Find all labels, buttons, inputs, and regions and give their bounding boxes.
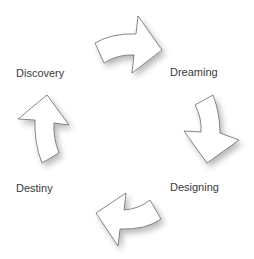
cycle-diagram: Discovery Dreaming Designing Destiny (0, 0, 254, 259)
arrows-layer (0, 0, 254, 259)
curved-arrow-left-icon (96, 193, 161, 246)
curved-arrow-right-icon (95, 16, 162, 73)
stage-label-designing: Designing (170, 181, 219, 193)
stage-label-destiny: Destiny (16, 182, 53, 194)
stage-label-dreaming: Dreaming (170, 66, 218, 78)
stage-label-discovery: Discovery (16, 67, 64, 79)
curved-arrow-up-icon (18, 95, 69, 163)
curved-arrow-down-icon (184, 95, 239, 163)
